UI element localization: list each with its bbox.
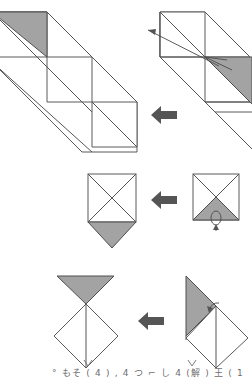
shaded-triangle-step-3-result <box>57 276 114 304</box>
figure-step-1-source <box>148 12 252 149</box>
figure-step-3-result <box>54 276 118 368</box>
flow-arrow-row2-glyph <box>151 191 177 209</box>
flow-arrow-row2 <box>151 191 177 209</box>
flow-arrow-row3-glyph <box>138 312 164 330</box>
handwritten-caption: ° もそ ( 4 ) , 4 つ ⌐ し 4 (解 ) 王 ( 1 <box>52 366 250 382</box>
shaded-flap-step-2-result <box>88 222 136 248</box>
square-2-left <box>47 57 92 102</box>
flow-arrow-row3 <box>138 312 164 330</box>
flow-arrow-row1 <box>151 106 177 124</box>
figure-step-2-result <box>88 174 136 248</box>
figure-step-1-result <box>0 12 137 152</box>
figure-step-2-source <box>193 174 239 231</box>
flow-arrow-row1-glyph <box>151 106 177 124</box>
diagram-page: .ln { stroke:#555555; stroke-width:1; fi… <box>0 0 252 384</box>
pull-arrow-head <box>148 29 156 35</box>
figure-step-3-source <box>186 276 248 368</box>
origami-diagram-canvas: .ln { stroke:#555555; stroke-width:1; fi… <box>0 0 252 384</box>
